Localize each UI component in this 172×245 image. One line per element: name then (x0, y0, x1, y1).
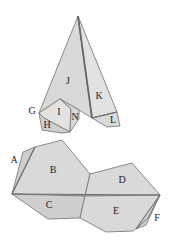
label-c: C (46, 199, 53, 210)
label-l: L (110, 114, 116, 125)
label-n: N (71, 111, 78, 122)
upper-figure (39, 16, 120, 133)
label-g: G (28, 105, 35, 116)
label-d: D (118, 174, 125, 185)
label-e: E (113, 205, 119, 216)
label-j: J (66, 75, 70, 86)
label-a: A (10, 154, 18, 165)
label-h: H (43, 119, 50, 130)
label-b: B (50, 164, 57, 175)
face-e (80, 195, 160, 232)
label-k: K (95, 90, 103, 101)
label-i: I (57, 106, 60, 117)
lower-figure (12, 140, 160, 232)
label-f: F (154, 212, 160, 223)
folded-nets-diagram: J K G I N H L A B C D E F (0, 0, 172, 245)
